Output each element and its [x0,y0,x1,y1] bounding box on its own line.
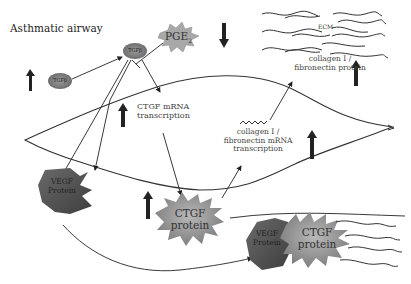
complex-vegf-label: VEGF Protein [249,230,285,247]
diagram-svg [0,0,411,284]
complex-ctgf-label: CTGF protein [292,226,342,250]
tgfb-main-label: TGFβ [125,48,145,54]
mrna-wave [240,121,267,124]
collagen-mrna-label: collagen I / fibronectin mRNA transcript… [218,128,298,154]
collagen-protein-label: collagen I / fibronectin protein [280,55,380,72]
ctgf-mrna-label: CTGF mRNA transcription [137,102,190,120]
cell-membrane [25,76,392,190]
ecm-label: ECM [318,24,333,31]
vegf-protein-label: VEGF Protein [40,178,84,195]
ctgf-protein-label: CTGF protein [166,207,214,231]
diagram-title: Asthmatic airway [10,22,103,34]
tgfb-small-label: TGFβ [50,78,70,84]
pge2-label: PGE2 [165,30,192,45]
ecm-fibers [262,11,388,58]
diagram-canvas: Asthmatic airway TGFβ TGFβ PGE2 ECM coll… [0,0,411,284]
